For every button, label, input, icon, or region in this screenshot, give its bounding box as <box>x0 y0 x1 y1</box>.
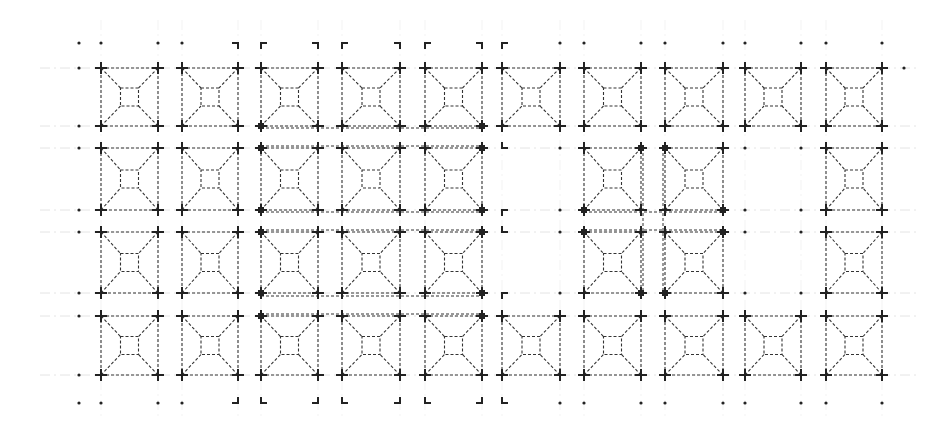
diagonal <box>622 272 642 294</box>
diagonal <box>584 106 604 126</box>
diagonal <box>342 316 362 337</box>
diagonal <box>863 316 882 337</box>
square-post <box>479 207 485 213</box>
square-post <box>581 229 587 235</box>
grid-dot <box>77 124 80 127</box>
diagonal <box>219 316 238 337</box>
corner-bracket <box>261 43 267 49</box>
diagonal <box>101 106 121 126</box>
diagonal <box>540 355 560 376</box>
grid-dot <box>743 230 746 233</box>
diagonal <box>299 272 319 294</box>
diagonal <box>182 106 201 126</box>
diagonal <box>182 68 201 88</box>
inner-square <box>445 337 463 355</box>
grid-dots <box>77 41 905 404</box>
grid-dot <box>663 41 666 44</box>
diagonal <box>182 272 201 294</box>
inner-square <box>685 254 703 272</box>
square-post <box>720 229 726 235</box>
diagonal <box>182 316 201 337</box>
diagonal <box>425 148 445 170</box>
diagonal <box>380 316 400 337</box>
corner-brackets <box>232 43 508 403</box>
grid-dot <box>743 401 746 404</box>
square-post <box>258 229 264 235</box>
bay-skylight <box>659 142 729 216</box>
grid-dot <box>639 41 642 44</box>
bay-skylight <box>95 310 164 381</box>
diagonal <box>425 232 445 254</box>
bay-skylight <box>820 62 888 132</box>
bay-skylight <box>739 62 807 132</box>
diagonal <box>299 232 319 254</box>
diagonal <box>665 355 685 376</box>
diagonal <box>342 148 362 170</box>
diagonal <box>703 232 723 254</box>
grid-dot <box>880 41 883 44</box>
diagonal <box>101 232 121 254</box>
grid-dot <box>558 401 561 404</box>
diagonal <box>182 232 201 254</box>
diagonal <box>703 148 723 170</box>
diagonal <box>299 106 319 126</box>
diagonal <box>139 68 159 88</box>
bay-skylight <box>659 62 729 132</box>
grid-dot <box>639 401 642 404</box>
bay-skylight <box>176 62 244 132</box>
inner-square <box>845 88 863 106</box>
inner-square <box>362 88 380 106</box>
diagonal <box>622 355 642 376</box>
diagonal <box>380 232 400 254</box>
bay-skylight <box>820 310 888 381</box>
grid-dot <box>77 208 80 211</box>
diagonal <box>219 355 238 376</box>
diagonal <box>665 148 685 170</box>
diagonal <box>584 355 604 376</box>
diagonal <box>622 106 642 126</box>
inner-square <box>281 337 299 355</box>
grid-dot <box>558 208 561 211</box>
grid-dot <box>582 41 585 44</box>
diagonal <box>463 355 483 376</box>
grid-dot <box>77 401 80 404</box>
grid-dot <box>743 208 746 211</box>
corner-bracket <box>502 43 508 49</box>
diagonal <box>826 316 845 337</box>
diagonal <box>425 188 445 210</box>
diagonal <box>584 316 604 337</box>
diagonal <box>622 188 642 210</box>
grid-dot <box>77 146 80 149</box>
diagonal <box>540 316 560 337</box>
diagonal <box>584 232 604 254</box>
inner-square <box>685 337 703 355</box>
diagonal <box>342 68 362 88</box>
bay-skylight <box>578 142 647 216</box>
diagonal <box>665 232 685 254</box>
bay-skylight <box>820 142 888 216</box>
diagonal <box>863 68 882 88</box>
grid-dot <box>824 41 827 44</box>
corner-bracket <box>425 43 431 49</box>
square-post <box>638 145 644 151</box>
bay-skylight <box>176 310 244 381</box>
diagonal <box>463 272 483 294</box>
diagonal <box>665 68 685 88</box>
bay-skylight <box>255 142 324 216</box>
square-post <box>662 290 668 296</box>
bay-skylight <box>578 226 647 299</box>
square-post <box>662 145 668 151</box>
grid-dot <box>799 41 802 44</box>
diagonal <box>299 355 319 376</box>
diagonal <box>826 272 845 294</box>
bay-skylight <box>336 226 406 299</box>
grid-dot <box>743 41 746 44</box>
diagonal <box>261 188 281 210</box>
diagonal <box>622 148 642 170</box>
diagonal <box>622 316 642 337</box>
diagonal <box>261 148 281 170</box>
diagonal <box>703 316 723 337</box>
grid-dot <box>156 41 159 44</box>
diagonal <box>101 68 121 88</box>
inner-square <box>685 88 703 106</box>
